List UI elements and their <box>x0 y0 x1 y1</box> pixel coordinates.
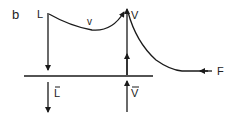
curve-v-label: v <box>87 17 92 27</box>
node-L-label: L <box>37 9 43 20</box>
panel-label: b <box>12 8 19 21</box>
node-V-label: V <box>131 10 138 21</box>
F-curve <box>128 12 208 71</box>
L-bar-label: L <box>54 88 60 99</box>
diagram-canvas <box>0 0 236 124</box>
V-bar-label: V <box>131 88 138 99</box>
node-F-label: F <box>217 66 224 77</box>
